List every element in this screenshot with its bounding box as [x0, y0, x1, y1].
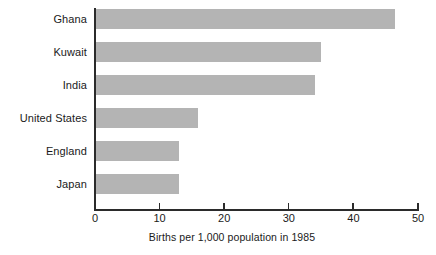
x-axis-tick — [159, 203, 161, 210]
bar-row: India — [0, 75, 436, 95]
x-axis-tick-label: 40 — [347, 212, 359, 225]
x-axis-tick-label: 30 — [283, 212, 295, 225]
x-axis-tick-label: 20 — [218, 212, 230, 225]
bar-row: Japan — [0, 174, 436, 194]
y-axis-line — [94, 8, 96, 210]
category-label-india: India — [63, 79, 87, 92]
bar-chart-figure: Ghana Kuwait India United States England… — [0, 0, 436, 255]
bar-england — [95, 141, 179, 161]
bar-row: Ghana — [0, 9, 436, 29]
category-label-japan: Japan — [57, 178, 87, 191]
x-axis-tick — [223, 203, 225, 210]
category-label-united-states: United States — [20, 112, 87, 125]
x-axis-tick — [288, 203, 290, 210]
bar-row: Kuwait — [0, 42, 436, 62]
x-axis-title-text: Births per 1,000 population in 1985 — [149, 231, 315, 244]
bar-united-states — [95, 108, 198, 128]
x-axis-tick — [417, 203, 419, 210]
category-label-kuwait: Kuwait — [53, 46, 87, 59]
x-axis-line — [94, 209, 419, 211]
bar-japan — [95, 174, 179, 194]
bar-row: England — [0, 141, 436, 161]
x-axis-tick-label: 0 — [92, 212, 98, 225]
bar-ghana — [95, 9, 395, 29]
bar-kuwait — [95, 42, 321, 62]
x-axis-tick — [94, 203, 96, 210]
plot-area: Ghana Kuwait India United States England… — [0, 0, 436, 215]
x-axis-title: Births per 1,000 population in 1985 — [0, 231, 436, 244]
bar-india — [95, 75, 315, 95]
category-label-england: England — [46, 145, 87, 158]
x-axis-tick-label: 50 — [412, 212, 424, 225]
x-axis-tick-label: 10 — [153, 212, 165, 225]
bar-row: United States — [0, 108, 436, 128]
category-label-ghana: Ghana — [53, 13, 87, 26]
x-axis-tick — [352, 203, 354, 210]
